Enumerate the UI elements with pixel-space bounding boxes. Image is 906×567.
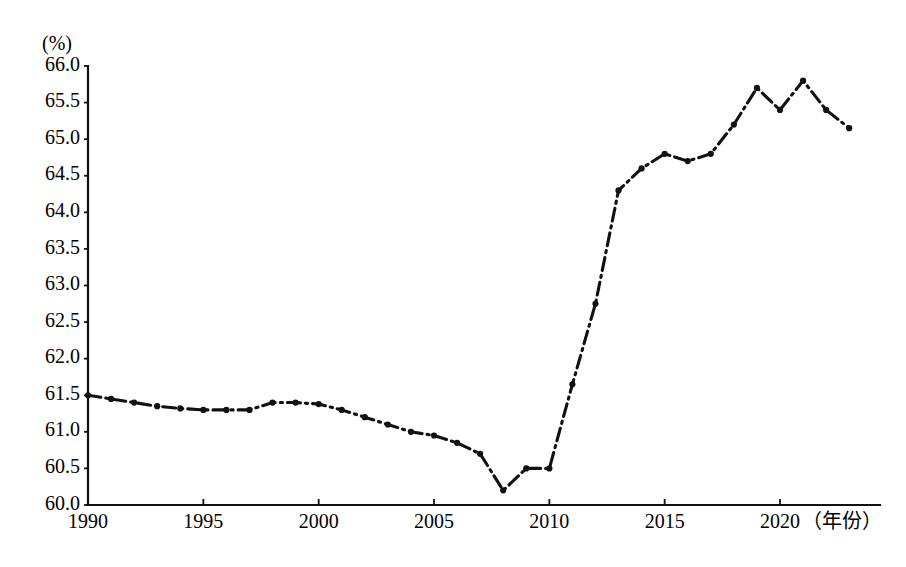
- data-point-marker: [569, 381, 575, 387]
- data-point-marker: [754, 85, 760, 91]
- data-point-marker: [731, 121, 737, 127]
- data-point-marker: [293, 399, 299, 405]
- data-point-marker: [316, 401, 322, 407]
- y-axis-tick-label: 63.0: [45, 272, 80, 294]
- data-point-marker: [615, 187, 621, 193]
- x-axis-tick-label: 2005: [414, 510, 454, 532]
- data-point-marker: [246, 407, 252, 413]
- data-point-marker: [339, 407, 345, 413]
- y-axis-tick-label: 62.0: [45, 345, 80, 367]
- data-series-line: [88, 81, 849, 491]
- y-axis-unit-label: (%): [42, 32, 72, 55]
- y-axis-tick-label: 60.5: [45, 455, 80, 477]
- data-point-marker: [823, 107, 829, 113]
- data-point-marker: [454, 440, 460, 446]
- data-point-marker: [639, 165, 645, 171]
- data-point-marker: [223, 407, 229, 413]
- data-point-marker: [500, 487, 506, 493]
- data-point-marker: [408, 429, 414, 435]
- x-axis-tick-label: 2010: [529, 510, 569, 532]
- x-axis-tick-label: 1995: [183, 510, 223, 532]
- data-point-marker: [431, 432, 437, 438]
- data-point-marker: [85, 392, 91, 398]
- data-point-marker: [177, 405, 183, 411]
- data-point-marker: [269, 399, 275, 405]
- data-point-marker: [662, 151, 668, 157]
- data-point-marker: [477, 451, 483, 457]
- x-axis-tick-label: 1990: [68, 510, 108, 532]
- line-chart: (%) 66.065.565.064.564.063.563.062.562.0…: [0, 0, 906, 567]
- data-point-marker: [800, 78, 806, 84]
- data-point-marker: [523, 465, 529, 471]
- data-point-marker: [846, 125, 852, 131]
- y-axis-tick-label: 61.0: [45, 418, 80, 440]
- data-point-marker: [708, 151, 714, 157]
- y-axis-tick-label: 61.5: [45, 382, 80, 404]
- data-point-marker: [200, 407, 206, 413]
- x-axis-tick-label: 2000: [299, 510, 339, 532]
- data-point-marker: [108, 396, 114, 402]
- y-axis-tick-label: 64.0: [45, 199, 80, 221]
- y-axis-tick-label: 65.0: [45, 126, 80, 148]
- y-axis-tick-labels: 66.065.565.064.564.063.563.062.562.061.5…: [45, 53, 80, 514]
- data-point-marker: [546, 465, 552, 471]
- y-axis-tick-label: 63.5: [45, 236, 80, 258]
- y-axis-tick-label: 66.0: [45, 53, 80, 75]
- chart-container: (%) 66.065.565.064.564.063.563.062.562.0…: [0, 0, 906, 567]
- data-point-marker: [154, 403, 160, 409]
- x-axis-tick-label: 2015: [645, 510, 685, 532]
- y-axis-tick-label: 64.5: [45, 162, 80, 184]
- y-axis-tick-label: 65.5: [45, 89, 80, 111]
- data-point-marker: [385, 421, 391, 427]
- data-point-marker: [592, 301, 598, 307]
- data-point-marker: [362, 414, 368, 420]
- x-axis-tick-label: 2020: [760, 510, 800, 532]
- data-series-markers: [85, 78, 852, 494]
- data-point-marker: [131, 399, 137, 405]
- x-axis-tick-labels: 1990199520002005201020152020: [68, 510, 800, 532]
- data-point-marker: [685, 158, 691, 164]
- x-axis-title: （年份）: [802, 510, 882, 532]
- data-point-marker: [777, 107, 783, 113]
- y-axis-tick-label: 62.5: [45, 309, 80, 331]
